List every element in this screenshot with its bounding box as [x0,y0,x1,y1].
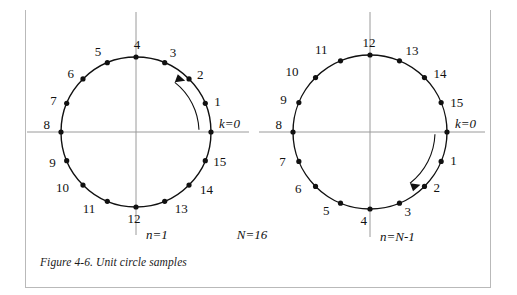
right-circle-sample-dot [422,184,427,189]
right-circle-sample-label: 15 [450,95,463,110]
left-circle-sample-label: 6 [67,66,74,81]
unit-circle-diagram: k=0123456789101112131415n=1k=01234567891… [0,0,517,295]
left-circle-sample-label: 14 [200,182,214,197]
left-circle-sample-label: 8 [44,117,51,132]
right-circle-sample-label: 5 [323,203,330,218]
left-circle-sample-label: 12 [128,211,141,226]
left-circle-sample-label: 15 [213,154,226,169]
left-circle-sample-label: 5 [95,44,102,59]
left-circle-sample-dot [64,158,69,163]
right-circle-sample-label: 10 [286,64,299,79]
right-circle-sample-label: 4 [361,213,368,228]
left-circle-sample-dot [80,182,85,187]
right-circle-sample-dot [367,206,372,211]
left-circle-sample-label: 11 [83,201,96,216]
right-circle-origin-label: k=0 [455,116,477,131]
right-circle-sample-dot [296,100,301,105]
left-circle-sample-dot [105,199,110,204]
left-circle-sample-dot [203,158,208,163]
left-circle-direction-arrowhead [172,73,185,86]
left-circle-sample-label: 13 [175,201,188,216]
left-circle-sample-label: 3 [170,45,177,60]
right-circle-direction-label: n=N-1 [380,229,415,244]
left-circle-sample-label: 7 [50,93,57,108]
right-circle-sample-label: 8 [276,117,283,132]
total-samples-label: N=16 [236,227,268,242]
right-circle-sample-label: 7 [279,154,286,169]
left-circle-sample-label: 10 [56,180,69,195]
right-circle-sample-dot [338,58,343,63]
right-circle-sample-label: 1 [450,153,457,168]
left-circle-direction-arc [175,82,199,129]
right-circle-sample-dot [397,201,402,206]
left-circle-sample-dot [203,101,208,106]
left-circle-sample-label: 2 [197,67,204,82]
right-circle-sample-label: 14 [433,66,447,81]
right-circle-direction-arrowhead [407,179,420,192]
right-circle-sample-dot [313,184,318,189]
left-circle-sample-dot [80,76,85,81]
left-circle-sample-dot [162,199,167,204]
left-circle-sample-dot [186,76,191,81]
left-circle-sample-dot [105,60,110,65]
right-circle-sample-dot [367,52,372,57]
left-circle-sample-label: 4 [134,37,141,52]
left-circle-sample-dot [133,54,138,59]
right-circle-sample-label: 12 [363,35,376,50]
figure-container: k=0123456789101112131415n=1k=01234567891… [0,0,517,295]
right-circle-sample-dot [313,75,318,80]
right-circle-direction-arc [410,134,435,183]
right-circle-sample-label: 9 [280,92,287,107]
right-circle-sample-label: 3 [404,204,411,219]
right-circle-sample-dot [296,159,301,164]
left-circle-sample-dot [58,129,63,134]
right-circle-sample-dot [290,129,295,134]
right-circle-group: k=0123456789101112131415n=N-1 [259,12,485,244]
right-circle-sample-label: 11 [315,42,328,57]
left-circle-origin-label: k=0 [219,116,241,131]
right-circle-sample-dot [338,201,343,206]
left-circle-group: k=0123456789101112131415n=1 [27,12,249,242]
left-circle-direction-label: n=1 [146,227,168,242]
left-circle-sample-dot [186,182,191,187]
left-circle-sample-dot [64,101,69,106]
right-circle-sample-dot [439,100,444,105]
left-circle-sample-dot [162,60,167,65]
right-circle-sample-dot [422,75,427,80]
right-circle-sample-label: 13 [405,43,418,58]
figure-caption: Figure 4-6. Unit circle samples [40,256,187,268]
right-circle-sample-dot [439,159,444,164]
left-circle-sample-label: 1 [214,94,221,109]
right-circle-sample-dot [397,58,402,63]
left-circle-sample-dot [208,129,213,134]
left-circle-sample-dot [133,204,138,209]
right-circle-sample-dot [444,129,449,134]
right-circle-sample-label: 2 [433,180,440,195]
left-circle-sample-label: 9 [49,155,56,170]
right-circle-sample-label: 6 [295,181,302,196]
